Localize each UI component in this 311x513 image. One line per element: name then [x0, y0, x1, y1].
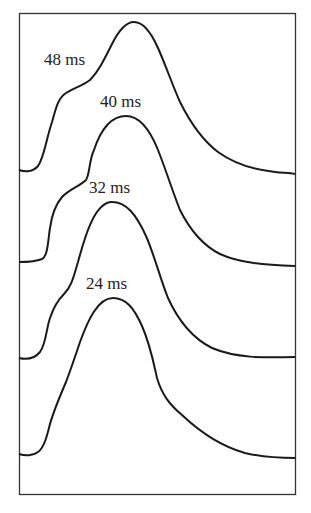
curve-48ms [19, 22, 295, 174]
curve-32ms [19, 202, 295, 359]
label-32ms: 32 ms [89, 178, 130, 198]
waveform-chart [0, 0, 311, 513]
label-24ms: 24 ms [86, 274, 127, 294]
curve-40ms [19, 116, 295, 266]
label-40ms: 40 ms [100, 92, 141, 112]
chart-frame [20, 14, 296, 495]
curve-24ms [19, 298, 295, 458]
label-48ms: 48 ms [44, 50, 85, 70]
